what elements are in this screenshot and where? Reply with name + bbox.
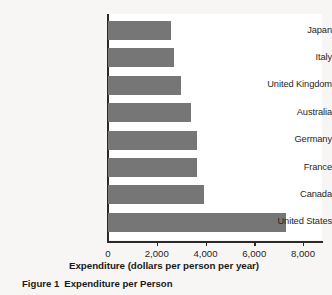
- figure-container: JapanItalyUnited KingdomAustraliaGermany…: [0, 0, 332, 295]
- category-label: Germany: [228, 134, 332, 144]
- x-tick-mark: [157, 241, 158, 246]
- category-label: Japan: [228, 25, 332, 35]
- figure-caption: Figure 1Expenditure per Person: [22, 278, 173, 289]
- figure-caption-title: Expenditure per Person: [64, 278, 172, 289]
- x-tick-label: 2,000: [145, 248, 169, 259]
- x-axis-title: Expenditure (dollars per person per year…: [0, 260, 332, 271]
- x-tick-label: 0: [105, 248, 110, 259]
- x-tick-label: 8,000: [291, 248, 315, 259]
- bar: [108, 21, 171, 40]
- category-label: Canada: [228, 189, 332, 199]
- bar: [108, 185, 204, 204]
- bar: [108, 158, 197, 177]
- bar: [108, 76, 181, 95]
- x-tick-mark: [206, 241, 207, 246]
- bar: [108, 131, 197, 150]
- figure-caption-label: Figure 1: [22, 278, 59, 289]
- x-tick-mark: [254, 241, 255, 246]
- category-label: United Kingdom: [228, 79, 332, 89]
- x-tick-mark: [303, 241, 304, 246]
- category-label: Italy: [228, 52, 332, 62]
- bar: [108, 103, 191, 122]
- category-label: United States: [228, 216, 332, 226]
- category-label: France: [228, 162, 332, 172]
- x-tick-label: 6,000: [242, 248, 266, 259]
- x-axis-line: [107, 241, 323, 243]
- x-tick-label: 4,000: [193, 248, 217, 259]
- category-label: Australia: [228, 107, 332, 117]
- bar: [108, 48, 174, 67]
